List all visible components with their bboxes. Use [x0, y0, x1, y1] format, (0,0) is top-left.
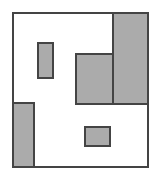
upper-left-small-rect: [38, 43, 53, 78]
bottom-center-small-rect: [85, 127, 110, 146]
figure-container: [0, 0, 161, 181]
bottom-left-shaded-strip: [13, 103, 34, 167]
geometry-figure: [0, 0, 161, 181]
center-shaded-block: [76, 54, 113, 104]
top-right-shaded-block: [113, 13, 148, 104]
